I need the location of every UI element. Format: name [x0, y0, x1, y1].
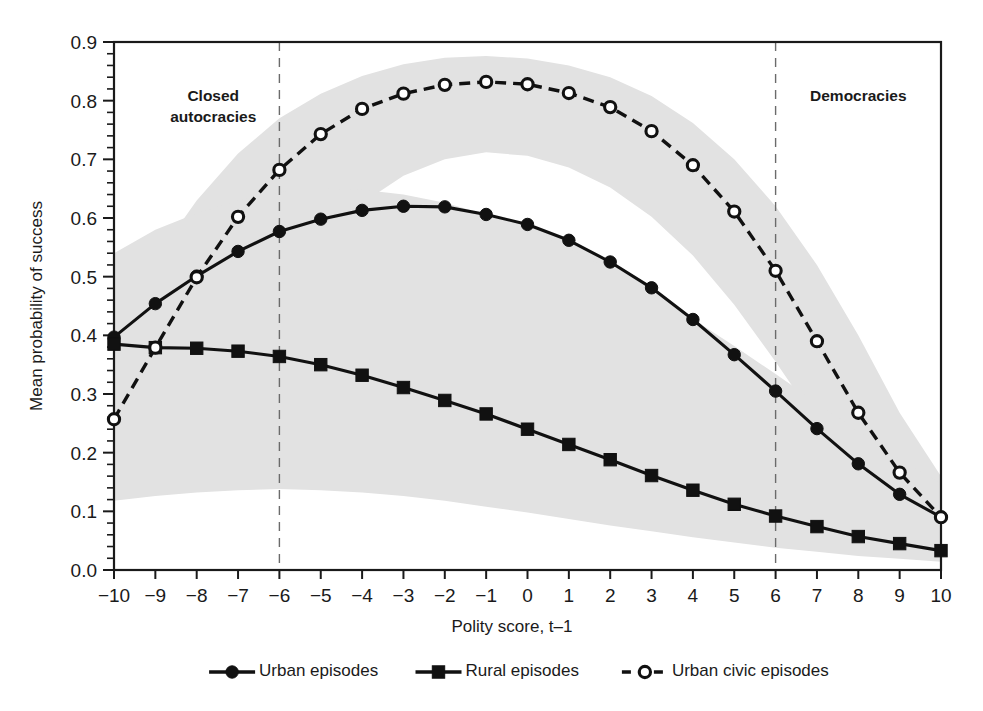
x-axis-title: Polity score, t–1	[452, 617, 573, 636]
x-tick-label: 6	[770, 585, 781, 606]
x-tick-label: 1	[564, 585, 575, 606]
x-tick-label: 0	[522, 585, 533, 606]
data-point-marker	[852, 458, 864, 470]
y-tick-label: 0.5	[71, 267, 97, 288]
data-point-marker	[191, 342, 203, 354]
x-tick-label: 8	[853, 585, 864, 606]
data-point-marker	[521, 423, 533, 435]
chart-figure: 0.00.10.20.30.40.50.60.70.80.9 −10−9−8−7…	[0, 0, 983, 711]
region-annotation-label: autocracies	[170, 108, 256, 125]
legend-label: Urban episodes	[259, 661, 378, 680]
data-point-marker	[397, 381, 409, 393]
data-point-marker	[687, 313, 699, 325]
x-tick-label: −3	[393, 585, 415, 606]
data-point-marker	[108, 414, 119, 425]
x-tick-label: 4	[688, 585, 699, 606]
data-point-marker	[645, 282, 657, 294]
data-point-marker	[108, 338, 120, 350]
x-tick-label: 2	[605, 585, 616, 606]
x-tick-label: 7	[812, 585, 823, 606]
data-point-marker	[728, 498, 740, 510]
x-tick-label: −9	[145, 585, 167, 606]
data-point-marker	[481, 76, 492, 87]
legend-label: Rural episodes	[466, 661, 579, 680]
data-point-marker	[439, 79, 450, 90]
region-annotation-label: Closed	[187, 87, 239, 104]
data-point-marker	[604, 256, 616, 268]
data-point-marker	[191, 272, 202, 283]
legend-item-urban-episodes[interactable]: Urban episodes	[209, 661, 378, 680]
confidence-bands-layer	[114, 56, 941, 562]
x-tick-label: 5	[729, 585, 740, 606]
data-point-marker	[563, 234, 575, 246]
x-tick-label: −8	[186, 585, 208, 606]
x-tick-label: 3	[646, 585, 657, 606]
y-tick-label: 0.3	[71, 384, 97, 405]
data-point-marker	[563, 87, 574, 98]
data-point-marker	[439, 201, 451, 213]
data-point-marker	[149, 297, 161, 309]
data-point-marker	[315, 358, 327, 370]
x-axis-tick-labels: −10−9−8−7−6−5−4−3−2−1012345678910	[98, 585, 952, 606]
x-tick-label: 10	[930, 585, 951, 606]
data-point-marker	[687, 484, 699, 496]
data-point-marker	[315, 213, 327, 225]
data-point-marker	[480, 208, 492, 220]
legend-item-urban-civic-episodes[interactable]: Urban civic episodes	[622, 661, 829, 680]
data-point-marker	[728, 348, 740, 360]
data-point-marker	[853, 407, 864, 418]
y-tick-label: 0.0	[71, 560, 97, 581]
y-tick-label: 0.4	[71, 325, 98, 346]
x-tick-label: −10	[98, 585, 130, 606]
y-tick-label: 0.7	[71, 149, 97, 170]
data-point-marker	[687, 160, 698, 171]
data-point-marker	[811, 520, 823, 532]
data-point-marker	[232, 211, 243, 222]
data-point-marker	[273, 350, 285, 362]
region-annotation-label: Democracies	[810, 87, 907, 104]
data-point-marker	[646, 126, 657, 137]
y-tick-label: 0.1	[71, 501, 97, 522]
data-point-marker	[769, 385, 781, 397]
y-axis-tick-labels: 0.00.10.20.30.40.50.60.70.80.9	[71, 32, 98, 581]
data-point-marker	[935, 512, 946, 523]
legend-item-rural-episodes[interactable]: Rural episodes	[416, 661, 579, 680]
data-point-marker	[273, 225, 285, 237]
x-tick-label: −6	[269, 585, 291, 606]
data-point-marker	[935, 544, 947, 556]
legend-label: Urban civic episodes	[672, 661, 829, 680]
data-point-marker	[356, 369, 368, 381]
data-point-marker	[605, 102, 616, 113]
y-tick-label: 0.2	[71, 443, 97, 464]
data-point-marker	[811, 336, 822, 347]
x-tick-label: −5	[310, 585, 332, 606]
y-tick-label: 0.9	[71, 32, 97, 53]
data-point-marker	[357, 103, 368, 114]
y-tick-label: 0.6	[71, 208, 97, 229]
data-point-marker	[232, 245, 244, 257]
data-point-marker	[893, 537, 905, 549]
x-tick-label: −1	[475, 585, 497, 606]
x-tick-label: −7	[227, 585, 249, 606]
data-point-marker	[852, 530, 864, 542]
data-point-marker	[439, 394, 451, 406]
data-point-marker	[521, 218, 533, 230]
data-point-marker	[432, 666, 444, 678]
data-point-marker	[639, 666, 650, 677]
x-tick-label: −2	[434, 585, 456, 606]
data-point-marker	[770, 265, 781, 276]
x-tick-label: 9	[894, 585, 905, 606]
data-point-marker	[315, 129, 326, 140]
data-point-marker	[397, 200, 409, 212]
data-point-marker	[894, 467, 905, 478]
data-point-marker	[232, 345, 244, 357]
data-point-marker	[604, 454, 616, 466]
data-point-marker	[150, 342, 161, 353]
data-point-marker	[226, 666, 238, 678]
data-point-marker	[398, 88, 409, 99]
data-point-marker	[645, 469, 657, 481]
data-point-marker	[769, 510, 781, 522]
data-point-marker	[356, 204, 368, 216]
data-point-marker	[893, 488, 905, 500]
chart-canvas: 0.00.10.20.30.40.50.60.70.80.9 −10−9−8−7…	[0, 0, 983, 711]
